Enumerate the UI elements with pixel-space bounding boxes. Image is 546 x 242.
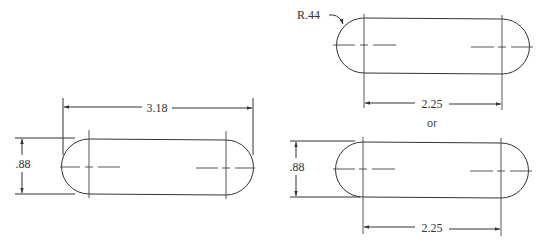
centerline-marks [333,14,533,110]
slot-outline [336,142,529,198]
alternative-separator: or [427,117,437,129]
center-distance-dimension: 2.25 [364,221,500,235]
width-label: .88 [16,157,31,171]
slot-outline [337,18,530,74]
radius-callout: R.44 [297,8,343,24]
center-distance-dimension: 2.25 [365,97,501,111]
slot-dimensioning-diagram: 3.18 .88 R.44 [0,0,546,242]
overall-length-dimension: 3.18 [63,98,253,155]
radius-label: R.44 [297,8,320,22]
center-distance-label: 2.25 [422,97,443,111]
top-right-slot-view: R.44 2.25 [297,8,533,111]
left-slot-view: 3.18 .88 [15,98,255,199]
overall-length-label: 3.18 [147,101,168,115]
center-distance-label: 2.25 [422,221,443,235]
width-dimension: .88 [15,138,75,194]
bottom-right-slot-view: .88 2.25 [290,137,533,236]
centerline-marks [60,130,255,199]
width-label: .88 [290,160,305,174]
